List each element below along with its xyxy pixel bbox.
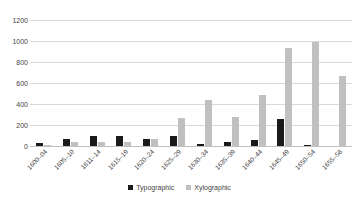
bar-xylographic (232, 117, 239, 146)
bar-xylographic (44, 145, 51, 146)
x-axis-tick-label: 1625–29 (160, 148, 184, 172)
y-axis-tick-label: 800 (2, 59, 28, 66)
bar-typographic (224, 142, 231, 146)
x-axis-tick-label: 1635–39 (213, 148, 237, 172)
x-axis-tick-label: 1615–19 (106, 148, 130, 172)
bar-group (30, 20, 57, 146)
y-axis-tick-label: 0 (2, 143, 28, 150)
legend-swatch-typographic-icon (128, 185, 133, 190)
bar-typographic (197, 144, 204, 146)
bar-group (218, 20, 245, 146)
bar-xylographic (151, 139, 158, 146)
y-axis-tick-label: 1000 (2, 38, 28, 45)
y-axis-tick-label: 600 (2, 80, 28, 87)
x-axis-tick-label: 1600–04 (26, 148, 50, 172)
bar-typographic (90, 136, 97, 146)
bar-typographic (277, 119, 284, 146)
x-axis-tick-label: 1640–44 (240, 148, 264, 172)
bar-group (191, 20, 218, 146)
bar-typographic (36, 143, 43, 146)
bar-typographic (116, 136, 123, 147)
y-axis-tick-label: 400 (2, 101, 28, 108)
bar-group (84, 20, 111, 146)
x-axis-tick-label: 1650–54 (294, 148, 318, 172)
bar-typographic (63, 139, 70, 146)
bar-typographic (304, 145, 311, 146)
bar-xylographic (312, 42, 319, 146)
bar-group (164, 20, 191, 146)
bar-group (245, 20, 272, 146)
bar-group (57, 20, 84, 146)
bar-chart: 120010008006004002000 1600–041605–101611… (0, 0, 359, 199)
x-axis-tick-label: 1620–24 (133, 148, 157, 172)
bar-xylographic (285, 48, 292, 146)
bar-typographic (170, 136, 177, 147)
bar-series-container (30, 20, 352, 146)
y-axis-tick-label: 1200 (2, 17, 28, 24)
bar-typographic (251, 140, 258, 146)
x-axis-tick-label: 1611–14 (80, 148, 103, 171)
legend-label: Xylographic (194, 184, 231, 191)
bar-group (110, 20, 137, 146)
x-axis: 1600–041605–101611–141615–191620–241625–… (30, 147, 352, 181)
legend-item[interactable]: Xylographic (186, 184, 231, 191)
x-axis-tick-label: 1645–49 (267, 148, 291, 172)
chart-legend: TypographicXylographic (0, 180, 359, 194)
bar-xylographic (205, 100, 212, 146)
bar-xylographic (178, 118, 185, 146)
x-axis-tick-label: 1630–34 (186, 148, 210, 172)
bar-group (325, 20, 352, 146)
bar-group (137, 20, 164, 146)
bar-xylographic (124, 142, 131, 146)
bar-group (298, 20, 325, 146)
x-axis-tick-label: 1655–58 (321, 148, 345, 172)
bar-typographic (143, 139, 150, 146)
x-axis-tick: 1655–58 (325, 147, 352, 181)
x-axis-tick-label: 1605–10 (52, 148, 76, 172)
bar-group (271, 20, 298, 146)
bar-xylographic (71, 142, 78, 146)
bar-xylographic (98, 142, 105, 146)
bar-xylographic (259, 95, 266, 146)
legend-item[interactable]: Typographic (128, 184, 174, 191)
bar-xylographic (339, 76, 346, 146)
y-axis: 120010008006004002000 (0, 20, 28, 146)
legend-label: Typographic (136, 184, 174, 191)
legend-swatch-xylographic-icon (186, 185, 191, 190)
y-axis-tick-label: 200 (2, 122, 28, 129)
plot-area (30, 20, 352, 146)
